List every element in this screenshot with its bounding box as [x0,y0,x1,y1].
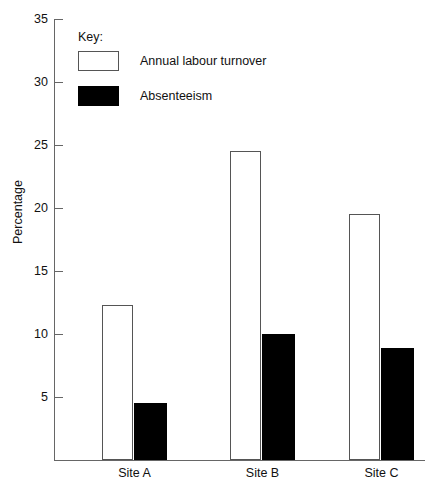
legend-swatch-turnover [78,51,119,71]
legend-item: Annual labour turnover [78,50,328,71]
y-tick-label: 25 [0,139,48,151]
x-axis-label-site-b: Site B [223,466,303,480]
legend-label: Annual labour turnover [140,54,266,68]
legend-title: Key: [78,30,328,44]
bar-site-c-turnover [349,214,380,460]
x-axis-label-site-a: Site A [95,466,175,480]
y-tick-label: 30 [0,76,48,88]
y-tick-label: 20 [0,202,48,214]
legend-swatch-absenteeism [78,86,119,106]
x-axis-label-site-c: Site C [342,466,422,480]
y-tick-label: 5 [0,391,48,403]
x-axis-line [54,460,425,461]
bar-site-a-absenteeism [134,403,167,460]
y-tick-label: 15 [0,265,48,277]
legend: Key: Annual labour turnoverAbsenteeism [78,30,328,120]
legend-label: Absenteeism [140,89,212,103]
legend-item: Absenteeism [78,85,328,106]
legend-entries: Annual labour turnoverAbsenteeism [78,50,328,106]
bar-site-c-absenteeism [381,348,414,460]
bar-site-a-turnover [102,305,133,460]
bar-chart: Percentage 5101520253035 Site ASite BSit… [0,0,433,487]
bar-site-b-turnover [230,151,261,460]
y-tick-label: 10 [0,328,48,340]
bar-site-b-absenteeism [262,334,295,460]
y-tick-label: 35 [0,13,48,25]
